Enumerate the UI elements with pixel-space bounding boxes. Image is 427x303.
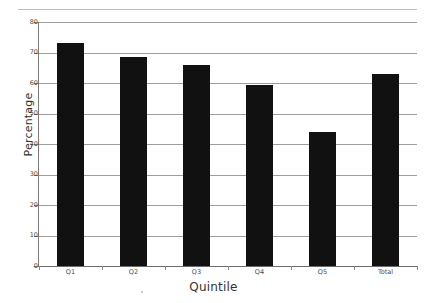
x-axis-title: Quintile: [0, 280, 427, 294]
x-tick-label: Q5: [296, 269, 350, 276]
bar[interactable]: [309, 132, 336, 266]
bar[interactable]: [183, 65, 210, 266]
y-tick-label: 0: [16, 263, 38, 270]
bar[interactable]: [246, 85, 273, 266]
bar[interactable]: [372, 74, 399, 266]
bar[interactable]: [57, 43, 84, 266]
y-tick-label: 20: [16, 202, 38, 209]
y-tick-label: 70: [16, 49, 38, 56]
y-tick-label: 30: [16, 171, 38, 178]
x-tick-mark: [417, 266, 418, 270]
y-tick-label: 80: [16, 19, 38, 26]
x-tick-label: Total: [359, 269, 413, 276]
x-tick-label: Q4: [233, 269, 287, 276]
y-tick-label: 10: [16, 232, 38, 239]
x-tick-label: Q3: [170, 269, 224, 276]
x-tick-label: Q2: [107, 269, 161, 276]
chart-page: 01020304050607080 Percentage Q1Q2Q3Q4Q5T…: [0, 0, 427, 303]
y-axis-title: Percentage: [22, 85, 35, 165]
bar-chart: 01020304050607080 Percentage Q1Q2Q3Q4Q5T…: [0, 0, 427, 303]
x-tick-label: Q1: [44, 269, 98, 276]
bars: [39, 22, 417, 266]
bar[interactable]: [120, 57, 147, 266]
